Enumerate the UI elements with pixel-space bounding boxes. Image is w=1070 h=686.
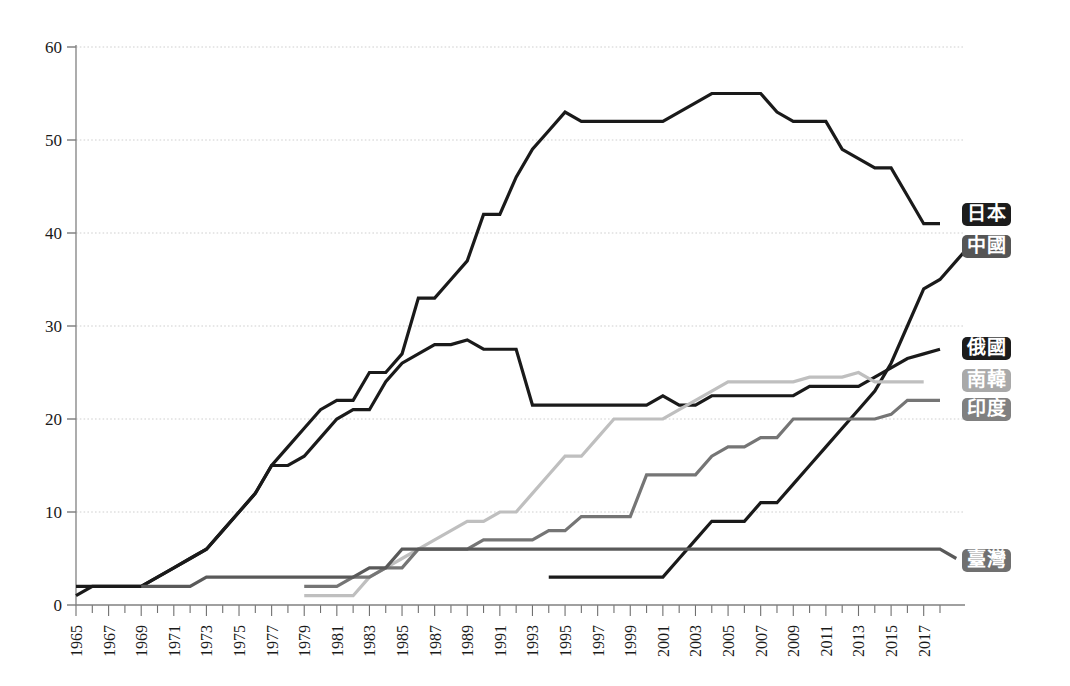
x-axis-labels-group: 1965196719691971197319751977197919811983… bbox=[68, 625, 933, 657]
chart-container: 0102030405060 19651967196919711973197519… bbox=[0, 0, 1070, 686]
legend-item-南韓[interactable]: 南韓 bbox=[962, 369, 1011, 392]
series-line-中國 bbox=[549, 242, 973, 577]
y-axis-tick-label: 40 bbox=[45, 224, 62, 243]
legend-item-label: 印度 bbox=[967, 399, 1006, 419]
y-axis-labels-group: 0102030405060 bbox=[45, 38, 62, 615]
x-axis-tick-label: 2009 bbox=[785, 625, 802, 657]
legend-item-印度[interactable]: 印度 bbox=[962, 398, 1011, 421]
x-axis-tick-label: 1993 bbox=[524, 625, 541, 657]
legend-item-臺灣[interactable]: 臺灣 bbox=[962, 549, 1011, 572]
x-axis-tick-label: 2011 bbox=[818, 625, 835, 656]
x-axis-tick-label: 1997 bbox=[590, 625, 607, 657]
x-axis-tick-label: 1973 bbox=[198, 625, 215, 657]
legend-item-中國[interactable]: 中國 bbox=[962, 235, 1011, 258]
data-series-group bbox=[76, 94, 973, 596]
legend-item-俄國[interactable]: 俄國 bbox=[962, 337, 1011, 360]
legend-item-label: 俄國 bbox=[967, 338, 1006, 358]
y-axis-tick-label: 30 bbox=[45, 317, 62, 336]
legend-item-label: 日本 bbox=[967, 204, 1006, 224]
series-line-日本 bbox=[76, 94, 940, 596]
x-axis-tick-label: 1981 bbox=[329, 625, 346, 657]
x-axis-tick-label: 2007 bbox=[753, 625, 770, 657]
legend-item-label: 臺灣 bbox=[967, 550, 1006, 570]
x-axis-tick-label: 1987 bbox=[427, 625, 444, 657]
x-axis-tick-label: 2017 bbox=[916, 625, 933, 657]
x-axis-tick-label: 1999 bbox=[622, 625, 639, 657]
y-axis-tick-label: 20 bbox=[45, 410, 62, 429]
y-axis-tick-label: 10 bbox=[45, 503, 62, 522]
x-axis-tick-label: 1967 bbox=[101, 625, 118, 657]
x-axis-ticks-group bbox=[76, 605, 940, 616]
x-axis-tick-label: 2003 bbox=[687, 625, 704, 657]
y-axis-tick-label: 50 bbox=[45, 131, 62, 150]
legend-item-label: 中國 bbox=[967, 236, 1006, 256]
x-axis-tick-label: 1979 bbox=[296, 625, 313, 657]
x-axis-tick-label: 1969 bbox=[133, 625, 150, 657]
y-axis-tick-label: 0 bbox=[54, 596, 63, 615]
x-axis-tick-label: 2005 bbox=[720, 625, 737, 657]
x-axis-tick-label: 1977 bbox=[264, 625, 281, 657]
legend-item-日本[interactable]: 日本 bbox=[962, 203, 1011, 226]
x-axis-tick-label: 1983 bbox=[361, 625, 378, 657]
x-axis-tick-label: 1989 bbox=[459, 625, 476, 657]
y-axis-ticks-group bbox=[67, 47, 76, 605]
series-line-臺灣 bbox=[141, 549, 956, 586]
x-axis-tick-label: 2001 bbox=[655, 625, 672, 657]
x-axis-tick-label: 1985 bbox=[394, 625, 411, 657]
x-axis-tick-label: 2015 bbox=[883, 625, 900, 657]
x-axis-tick-label: 1975 bbox=[231, 625, 248, 657]
x-axis-tick-label: 2013 bbox=[850, 625, 867, 657]
x-axis-tick-label: 1991 bbox=[492, 625, 509, 657]
line-chart: 0102030405060 19651967196919711973197519… bbox=[0, 0, 1070, 686]
x-axis-tick-label: 1995 bbox=[557, 625, 574, 657]
x-axis-tick-label: 1965 bbox=[68, 625, 85, 657]
x-axis-tick-label: 1971 bbox=[166, 625, 183, 657]
y-axis-tick-label: 60 bbox=[45, 38, 62, 57]
legend-item-label: 南韓 bbox=[967, 370, 1006, 390]
